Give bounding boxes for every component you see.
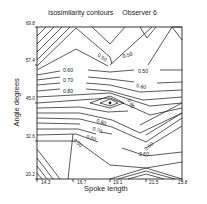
peak-marker — [109, 102, 112, 105]
svg-text:0.70: 0.70 — [63, 77, 73, 83]
svg-text:0.60: 0.60 — [136, 82, 147, 90]
svg-text:0.80: 0.80 — [63, 88, 73, 94]
svg-text:0.50: 0.50 — [72, 137, 84, 148]
contour-labels: 0.50 0.50 0.60 0.50 0.70 0.60 0.80 0.80 … — [63, 51, 154, 157]
contour-plot: 0.50 0.50 0.60 0.50 0.70 0.60 0.80 0.80 … — [0, 0, 207, 204]
axis-ticks — [35, 27, 182, 182]
svg-text:0.60: 0.60 — [86, 133, 98, 142]
svg-text:0.50: 0.50 — [122, 51, 133, 59]
svg-text:0.60: 0.60 — [139, 151, 149, 157]
svg-text:0.50: 0.50 — [138, 68, 148, 74]
svg-text:0.80: 0.80 — [126, 98, 136, 110]
svg-text:0.60: 0.60 — [63, 67, 73, 73]
